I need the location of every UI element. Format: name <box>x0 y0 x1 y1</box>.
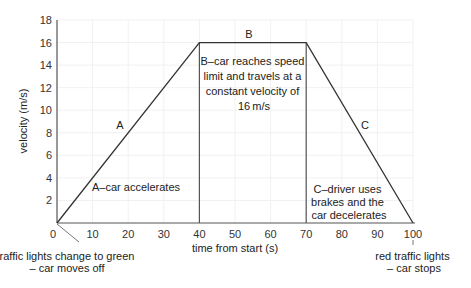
y-tick-label: 12 <box>40 82 52 94</box>
y-tick-label: 18 <box>40 14 52 26</box>
start-pointer <box>57 224 79 242</box>
segment-label-a: A <box>116 119 124 131</box>
y-tick-label: 2 <box>46 194 52 206</box>
y-tick-label: 14 <box>40 59 52 71</box>
x-tick-label: 60 <box>264 228 276 240</box>
annotation-start: traffic lights change to green – car mov… <box>0 250 138 274</box>
segment-label-b: B <box>245 28 252 40</box>
annotation-a: A–car accelerates <box>92 181 181 193</box>
y-axis-label: velocity (m/s) <box>17 89 29 154</box>
x-tick-label: 80 <box>336 228 348 240</box>
x-tick-label: 10 <box>86 228 98 240</box>
annotation-end: red traffic lights – car stops <box>375 250 452 274</box>
x-tick-label: 20 <box>122 228 134 240</box>
segment-label-c: C <box>361 119 369 131</box>
y-tick-label: 8 <box>46 127 52 139</box>
velocity-time-chart: 24681012141618 0102030405060708090100 ve… <box>0 0 471 288</box>
y-tick-label: 10 <box>40 104 52 116</box>
x-axis-label: time from start (s) <box>192 242 278 254</box>
x-tick-label: 0 <box>50 228 56 240</box>
y-tick-label: 6 <box>46 149 52 161</box>
x-tick-label: 50 <box>229 228 241 240</box>
annotation-b: B–car reaches speed limit and travels at… <box>200 55 307 112</box>
y-tick-label: 4 <box>46 172 52 184</box>
x-tick-label: 40 <box>193 228 205 240</box>
y-tick-label: 16 <box>40 37 52 49</box>
y-tick-labels: 24681012141618 <box>40 14 52 206</box>
annotation-c: C–driver uses brakes and the car deceler… <box>311 183 387 221</box>
x-tick-label: 100 <box>404 228 422 240</box>
x-tick-label: 30 <box>158 228 170 240</box>
x-tick-labels: 0102030405060708090100 <box>50 228 422 240</box>
x-tick-label: 70 <box>300 228 312 240</box>
x-tick-label: 90 <box>371 228 383 240</box>
